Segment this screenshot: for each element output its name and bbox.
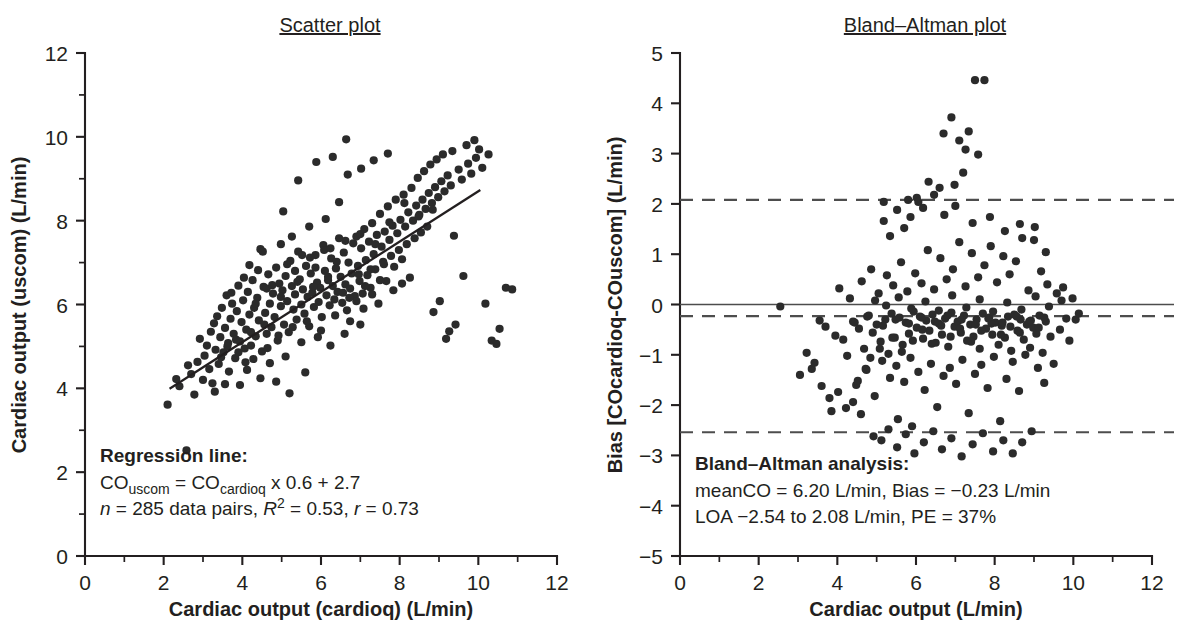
data-point bbox=[984, 314, 992, 322]
data-point bbox=[361, 282, 369, 290]
data-point bbox=[944, 343, 952, 351]
data-point bbox=[1053, 289, 1061, 297]
data-point bbox=[947, 434, 955, 442]
data-point bbox=[312, 158, 320, 166]
data-point bbox=[877, 436, 885, 444]
data-point bbox=[993, 278, 1001, 286]
data-point bbox=[445, 327, 453, 335]
data-point bbox=[268, 281, 276, 289]
data-point bbox=[184, 361, 192, 369]
data-point bbox=[346, 317, 354, 325]
data-point bbox=[835, 284, 843, 292]
data-point bbox=[827, 407, 835, 415]
data-point bbox=[924, 246, 932, 254]
x-tick-label: 8 bbox=[394, 571, 406, 594]
data-point bbox=[464, 160, 472, 168]
data-point bbox=[339, 289, 347, 297]
data-point bbox=[876, 345, 884, 353]
bland-altman-annotation-mean-bias: meanCO = 6.20 L/min, Bias = −0.23 L/min bbox=[695, 480, 1050, 501]
data-point bbox=[335, 198, 343, 206]
data-point bbox=[196, 335, 204, 343]
data-point bbox=[1006, 270, 1014, 278]
data-point bbox=[447, 181, 455, 189]
data-point bbox=[478, 164, 486, 172]
data-point bbox=[980, 76, 988, 84]
data-point bbox=[938, 331, 946, 339]
data-point bbox=[277, 240, 285, 248]
data-point bbox=[359, 290, 367, 298]
data-point bbox=[343, 306, 351, 314]
data-point bbox=[920, 438, 928, 446]
data-point bbox=[888, 334, 896, 342]
data-point bbox=[919, 335, 927, 343]
data-point bbox=[958, 315, 966, 323]
data-point bbox=[999, 252, 1007, 260]
data-point bbox=[164, 401, 172, 409]
data-point bbox=[333, 258, 341, 266]
bland-altman-plot-svg: Bland–Altman plot 024681012−5−4−3−2−1012… bbox=[600, 0, 1185, 639]
data-point bbox=[979, 429, 987, 437]
x-tick-label: 12 bbox=[1140, 571, 1163, 594]
data-point bbox=[1057, 296, 1065, 304]
data-point bbox=[1016, 220, 1024, 228]
data-point bbox=[875, 289, 883, 297]
data-point bbox=[930, 285, 938, 293]
data-point bbox=[1012, 257, 1020, 265]
data-point bbox=[952, 380, 960, 388]
data-point bbox=[842, 404, 850, 412]
bland-altman-x-axis-title: Cardiac output (L/min) bbox=[809, 598, 1022, 620]
x-tick-label: 0 bbox=[674, 571, 686, 594]
data-point bbox=[203, 341, 211, 349]
data-point bbox=[210, 319, 218, 327]
data-point bbox=[816, 317, 824, 325]
data-point bbox=[810, 359, 818, 367]
data-point bbox=[989, 447, 997, 455]
data-point bbox=[883, 271, 891, 279]
data-point bbox=[1007, 347, 1015, 355]
data-point bbox=[961, 282, 969, 290]
data-point bbox=[891, 315, 899, 323]
data-point bbox=[429, 206, 437, 214]
data-point bbox=[356, 321, 364, 329]
data-point bbox=[492, 340, 500, 348]
bland-altman-y-axis-title: Bias [COcardioq-COuscom] (L/min) bbox=[604, 137, 626, 474]
data-point bbox=[843, 352, 851, 360]
data-point bbox=[965, 409, 973, 417]
data-point bbox=[977, 327, 985, 335]
data-point bbox=[263, 344, 271, 352]
data-point bbox=[1040, 313, 1048, 321]
data-point bbox=[839, 336, 847, 344]
x-tick-label: 6 bbox=[910, 571, 922, 594]
data-point bbox=[943, 275, 951, 283]
data-point bbox=[897, 258, 905, 266]
data-point bbox=[475, 145, 483, 153]
data-point bbox=[967, 338, 975, 346]
data-point bbox=[882, 301, 890, 309]
data-point bbox=[396, 216, 404, 224]
x-tick-label: 2 bbox=[753, 571, 765, 594]
data-point bbox=[244, 288, 252, 296]
data-point bbox=[1059, 283, 1067, 291]
data-point bbox=[301, 368, 309, 376]
data-point bbox=[398, 255, 406, 263]
data-point bbox=[252, 300, 260, 308]
data-point bbox=[274, 331, 282, 339]
data-point bbox=[340, 248, 348, 256]
data-point bbox=[900, 224, 908, 232]
data-point bbox=[886, 232, 894, 240]
data-point bbox=[971, 76, 979, 84]
data-point bbox=[936, 184, 944, 192]
regression-annotation-equation: COuscom = COcardioq x 0.6 + 2.7 bbox=[100, 472, 360, 497]
data-point bbox=[376, 210, 384, 218]
data-point bbox=[1046, 333, 1054, 341]
data-point bbox=[854, 377, 862, 385]
x-tick-label: 4 bbox=[831, 571, 843, 594]
data-point bbox=[884, 350, 892, 358]
x-tick-label: 10 bbox=[1062, 571, 1085, 594]
data-point bbox=[346, 284, 354, 292]
data-point bbox=[1039, 349, 1047, 357]
data-point bbox=[1016, 329, 1024, 337]
data-point bbox=[495, 325, 503, 333]
regression-annotation: Regression line: COuscom = COcardioq x 0… bbox=[100, 445, 419, 519]
data-point bbox=[368, 219, 376, 227]
